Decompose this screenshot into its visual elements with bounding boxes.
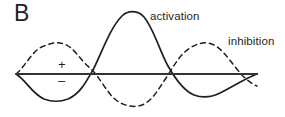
activation-label: activation [150, 10, 200, 22]
plus-sign-annotation: + [58, 58, 66, 71]
waveform-plot [0, 0, 285, 117]
panel-letter: B [14, 2, 30, 25]
figure-panel-b: B activation inhibition + – [0, 0, 285, 117]
inhibition-label: inhibition [228, 35, 274, 47]
minus-sign-annotation: – [58, 74, 65, 87]
activation-curve [16, 12, 257, 102]
